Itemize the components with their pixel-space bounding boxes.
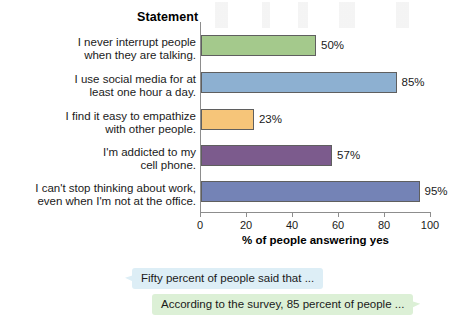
x-axis-tick-label-20: 20: [240, 219, 252, 231]
category-label-2: I find it easy to empathize with other p…: [0, 110, 196, 135]
bubble-tail-icon: [125, 275, 134, 282]
category-label-line: I find it easy to empathize: [0, 110, 196, 123]
scan-bleed-artifact: [205, 2, 463, 28]
category-label-1: I use social media for at least one hour…: [0, 73, 196, 98]
survey-bar-chart-figure: Statement 0 20 40 60 80 100 % of people …: [0, 0, 471, 319]
callout-bubble-fifty-percent: Fifty percent of people said that ...: [132, 268, 323, 289]
x-axis-tick-label-0: 0: [197, 219, 203, 231]
category-label-3: I'm addicted to my cell phone.: [0, 146, 196, 171]
x-axis-tick-label-60: 60: [332, 219, 344, 231]
callout-bubble-according-survey: According to the survey, 85 percent of p…: [152, 294, 413, 315]
category-label-4: I can't stop thinking about work, even w…: [0, 182, 196, 207]
x-axis-tick-0: [200, 212, 201, 217]
x-axis-tick-60: [338, 212, 339, 217]
x-axis-tick-20: [246, 212, 247, 217]
x-axis-tick-100: [430, 212, 431, 217]
bar-2: [201, 109, 254, 130]
bar-4: [201, 181, 420, 202]
x-axis-tick-label-80: 80: [378, 219, 390, 231]
category-label-line: I use social media for at: [0, 73, 196, 86]
category-label-line: least one hour a day.: [0, 86, 196, 99]
x-axis-tick-40: [292, 212, 293, 217]
x-axis-tick-80: [384, 212, 385, 217]
bar-1: [201, 72, 397, 93]
category-label-line: even when I'm not at the office.: [0, 195, 196, 208]
category-label-0: I never interrupt people when they are t…: [0, 36, 196, 61]
x-axis-tick-label-40: 40: [286, 219, 298, 231]
category-column-header: Statement: [137, 10, 198, 24]
bar-3: [201, 145, 332, 166]
category-label-line: I'm addicted to my: [0, 146, 196, 159]
bar-value-label-1: 85%: [402, 76, 425, 88]
callout-text: Fifty percent of people said that ...: [141, 272, 314, 284]
bar-value-label-0: 50%: [321, 39, 344, 51]
bubble-tail-icon: [411, 301, 420, 308]
x-axis-tick-label-100: 100: [421, 219, 439, 231]
category-label-line: I never interrupt people: [0, 36, 196, 49]
category-label-line: I can't stop thinking about work,: [0, 182, 196, 195]
category-label-line: when they are talking.: [0, 49, 196, 62]
bar-value-label-3: 57%: [337, 149, 360, 161]
category-label-line: cell phone.: [0, 159, 196, 172]
bar-value-label-4: 95%: [425, 185, 448, 197]
x-axis-line: [200, 212, 431, 213]
x-axis-title: % of people answering yes: [200, 234, 431, 246]
bar-value-label-2: 23%: [259, 113, 282, 125]
bar-0: [201, 35, 316, 56]
category-label-line: with other people.: [0, 123, 196, 136]
callout-text: According to the survey, 85 percent of p…: [161, 298, 404, 310]
